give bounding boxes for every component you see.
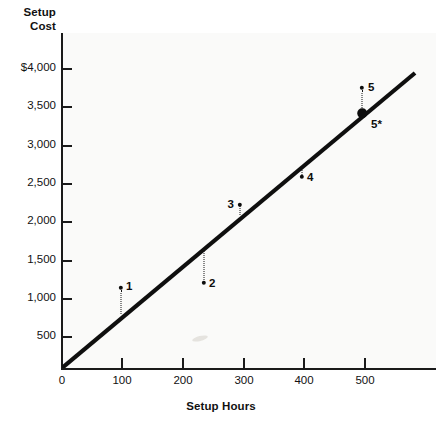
y-tick-label: $4,000 (0, 61, 56, 73)
x-tick-label: 400 (274, 374, 334, 386)
x-axis-line (61, 368, 436, 370)
data-point-3-label: 3 (228, 198, 234, 210)
y-tick-mark (62, 298, 72, 300)
y-tick-mark (62, 336, 72, 338)
x-tick-label: 300 (214, 374, 274, 386)
x-tick-label: 500 (335, 374, 395, 386)
data-point-5-star[interactable] (357, 108, 367, 118)
data-point-5-star-label: 5* (371, 118, 382, 130)
x-tick-mark (182, 358, 184, 368)
y-tick-label: 3,500 (0, 99, 56, 111)
plot-area-background (62, 33, 436, 368)
y-axis-title: SetupCost (0, 6, 56, 33)
y-tick-label: 2,500 (0, 176, 56, 188)
y-axis-title-line1: Setup (24, 6, 56, 18)
x-tick-label: 100 (92, 374, 152, 386)
x-tick-mark (121, 358, 123, 368)
leader-line-point-1 (121, 290, 122, 314)
y-tick-label: 1,000 (0, 291, 56, 303)
data-point-2-label: 2 (209, 277, 215, 289)
leader-line-point-2 (204, 249, 205, 282)
y-tick-label: 1,500 (0, 253, 56, 265)
x-tick-mark (243, 358, 245, 368)
x-tick-mark (303, 358, 305, 368)
y-tick-label: 500 (0, 329, 56, 341)
x-tick-label: 200 (153, 374, 213, 386)
data-point-5-label: 5 (368, 81, 374, 93)
y-tick-label: 3,000 (0, 138, 56, 150)
y-axis-title-line2: Cost (30, 20, 56, 32)
y-axis-line (61, 33, 63, 370)
y-tick-mark (62, 106, 72, 108)
y-tick-mark (62, 221, 72, 223)
x-axis-title: Setup Hours (0, 400, 442, 414)
x-tick-label: 0 (32, 374, 92, 386)
y-tick-mark (62, 68, 72, 70)
y-tick-label: 2,000 (0, 214, 56, 226)
data-point-1-label: 1 (126, 280, 132, 292)
chart-figure: SetupCost $4,000 3,500 3,000 2,500 2,000… (0, 0, 442, 435)
leader-line-point-3 (240, 206, 241, 215)
y-tick-mark (62, 183, 72, 185)
y-tick-mark (62, 145, 72, 147)
y-tick-mark (62, 260, 72, 262)
data-point-4-label: 4 (307, 171, 313, 183)
x-tick-mark (364, 358, 366, 368)
